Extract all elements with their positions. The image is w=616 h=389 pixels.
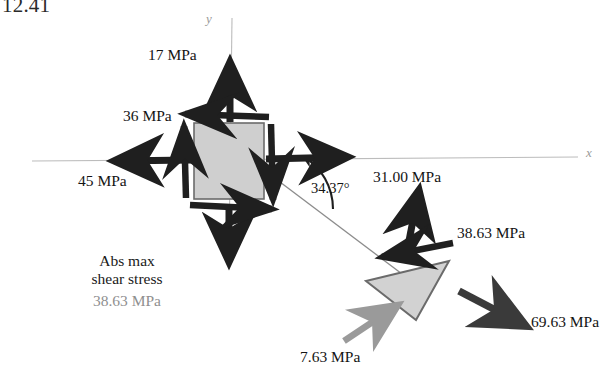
label-normal-stress-6963: 69.63 MPa (531, 313, 599, 331)
abs-max-shear-annotation: Abs max shear stress 38.63 MPa (68, 252, 186, 309)
abs-max-value: 38.63 MPa (68, 292, 186, 310)
stress-element-square (194, 123, 264, 199)
label-plane-angle: 34.37° (311, 180, 349, 197)
label-normal-stress-45: 45 MPa (78, 172, 127, 190)
arrow-shear-left (184, 126, 186, 198)
axis-group (32, 18, 578, 250)
label-shear-stress-36: 36 MPa (123, 107, 172, 125)
label-normal-stress-17: 17 MPa (148, 46, 197, 64)
arrow-shear-bottom (190, 205, 272, 209)
arrow-shear-right (271, 124, 273, 200)
arrow-3863 (382, 243, 453, 257)
arrow-45-right (266, 157, 348, 159)
arrow-45-left (114, 160, 192, 161)
abs-max-line-2: shear stress (68, 270, 186, 288)
stress-wedge-triangle (366, 261, 449, 320)
label-normal-stress-31: 31.00 MPa (373, 168, 441, 186)
problem-number: 12.41 (2, 0, 50, 17)
y-axis-label: y (206, 12, 212, 27)
label-normal-stress-763: 7.63 MPa (300, 348, 360, 366)
arrow-6963 (459, 291, 526, 326)
stress-transformation-diagram (0, 0, 616, 389)
arrow-shear-top (185, 114, 269, 117)
label-shear-stress-3863: 38.63 MPa (457, 224, 525, 242)
arrow-763 (344, 305, 398, 341)
arrow-3100 (406, 190, 419, 256)
x-axis-label: x (586, 146, 592, 161)
abs-max-line-1: Abs max (68, 252, 186, 270)
figure-canvas: 12.41 17 MPa 36 MPa 45 MPa 34.37° 31.00 … (0, 0, 616, 389)
